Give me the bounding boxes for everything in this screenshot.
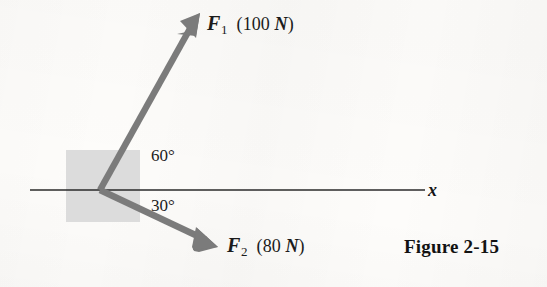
figure-container: F1(100 N) F2(80 N) 60° 30° x Figure 2-15 <box>0 0 547 287</box>
axis-label-x: x <box>428 180 437 201</box>
force-magnitude-value-f1: 100 <box>243 14 270 34</box>
force-symbol-f1: F <box>207 12 220 34</box>
force-magnitude-value-f2: 80 <box>263 236 281 256</box>
force-subscript-f2: 2 <box>241 244 248 259</box>
force-unit-f1: N <box>275 14 288 34</box>
force-symbol-f2: F <box>227 234 240 256</box>
vector-f1-shaft <box>100 25 192 190</box>
force-subscript-f1: 1 <box>221 22 228 37</box>
force-magnitude-f1: (100 N) <box>237 14 294 34</box>
vector-f2-arrowhead-fill <box>193 228 218 250</box>
figure-caption: Figure 2-15 <box>404 236 499 258</box>
force-unit-f2: N <box>285 236 298 256</box>
angle-label-30: 30° <box>151 196 175 216</box>
angle-label-60: 60° <box>151 146 175 166</box>
force-magnitude-f2: (80 N) <box>257 236 305 256</box>
force-label-f1: F1(100 N) <box>207 12 294 38</box>
vector-f1 <box>100 13 200 190</box>
force-label-f2: F2(80 N) <box>227 234 305 260</box>
